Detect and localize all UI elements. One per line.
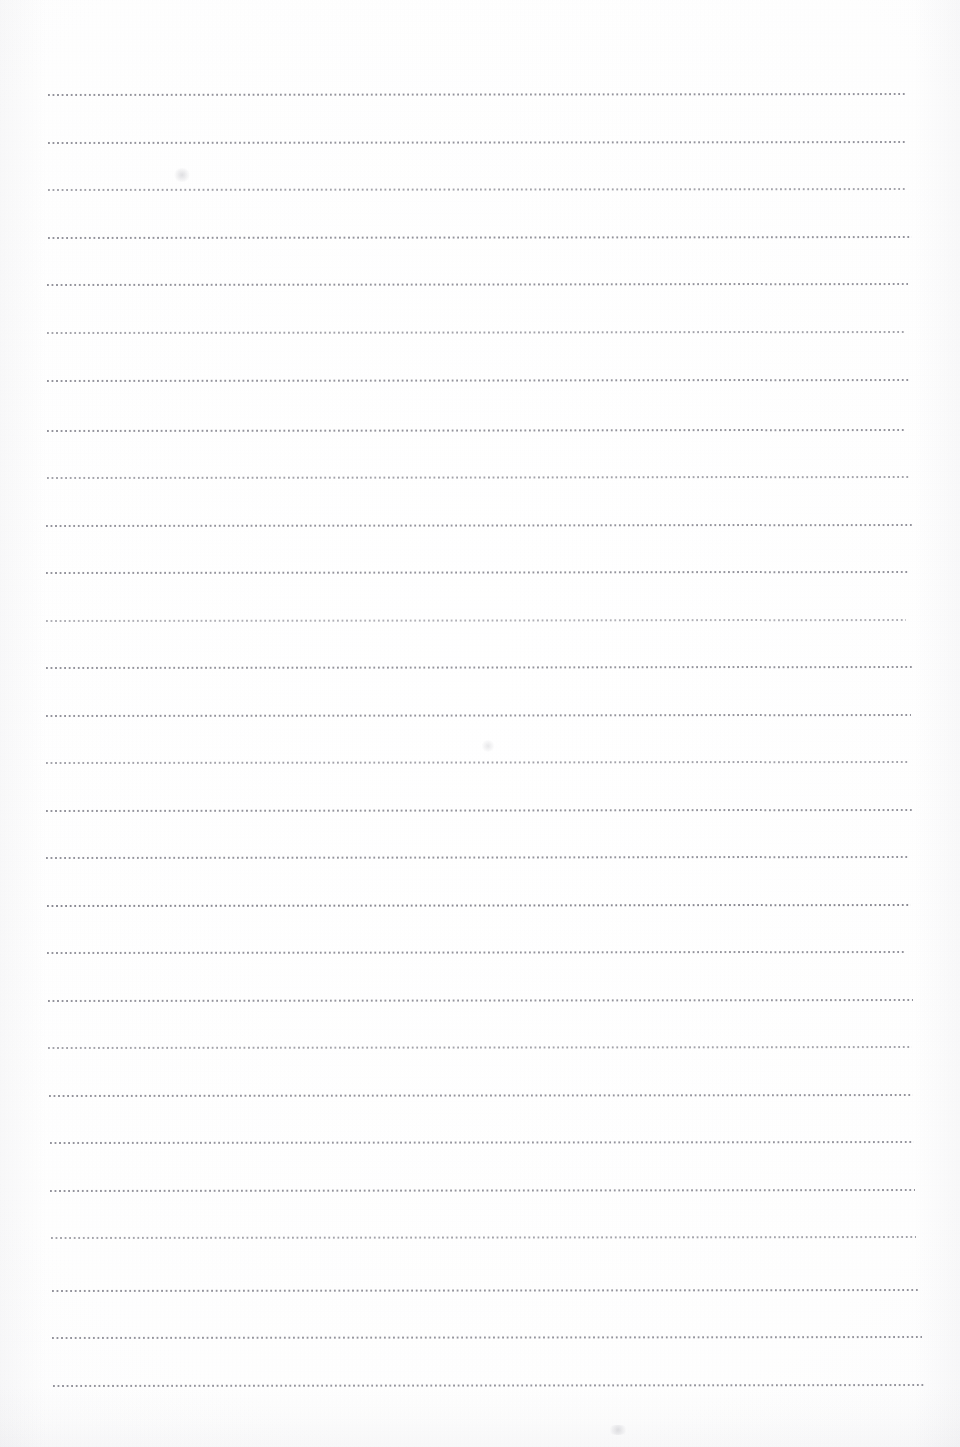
ruled-lines-layer	[0, 0, 960, 1447]
rule-line	[46, 808, 912, 812]
rule-line	[46, 855, 908, 859]
rule-line	[48, 235, 912, 239]
rule-line	[46, 618, 906, 622]
rule-line	[48, 140, 906, 144]
rule-line	[47, 330, 905, 334]
rule-line	[53, 1383, 925, 1387]
rule-line	[48, 1045, 912, 1049]
rule-line	[47, 428, 905, 432]
rule-line	[47, 475, 910, 479]
rule-line	[46, 523, 912, 527]
rule-line	[50, 1188, 915, 1192]
rule-line	[47, 282, 908, 286]
rule-line	[48, 92, 907, 96]
rule-line	[46, 570, 908, 574]
rule-line	[47, 903, 911, 907]
rule-line	[46, 760, 908, 764]
rule-line	[49, 1093, 913, 1097]
rule-line	[51, 1235, 916, 1239]
rule-line	[46, 665, 912, 669]
notebook-page	[0, 0, 960, 1447]
rule-line	[48, 998, 913, 1002]
rule-line	[46, 713, 911, 717]
rule-line	[50, 1140, 914, 1144]
rule-line	[52, 1288, 920, 1292]
rule-line	[47, 950, 906, 954]
rule-line	[47, 378, 910, 382]
rule-line	[52, 1335, 922, 1339]
rule-line	[48, 187, 905, 191]
